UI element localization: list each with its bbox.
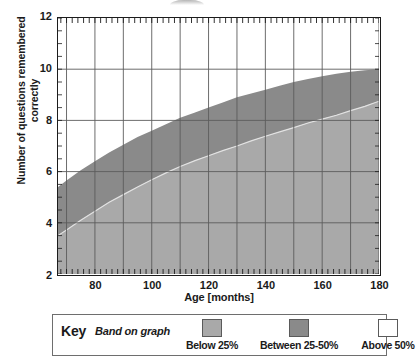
x-tick-160: 160	[303, 279, 343, 291]
key-entry-above-50: Above 50%	[349, 319, 420, 351]
y-tick-10: 10	[28, 63, 52, 74]
key-legend: Key Band on graph Below 25% Between 25-5…	[52, 314, 387, 356]
x-tick-80: 80	[75, 279, 115, 291]
key-caption-above-50: Above 50%	[349, 339, 420, 351]
key-swatch-below-25	[202, 319, 222, 337]
y-tick-6: 6	[28, 166, 52, 177]
plot-area	[57, 17, 381, 276]
y-tick-12: 12	[28, 11, 52, 22]
y-axis-tick-labels: 24681012	[26, 0, 52, 305]
key-subtitle: Band on graph	[95, 325, 170, 337]
key-swatch-between-25-50	[289, 319, 309, 337]
key-caption-between-25-50: Between 25-50%	[249, 339, 349, 351]
y-tick-8: 8	[28, 115, 52, 126]
chart-figure: Number of questions remembered correctly…	[0, 0, 394, 305]
x-axis-title: Age [months]	[57, 291, 381, 303]
x-tick-140: 140	[246, 279, 286, 291]
key-caption-below-25: Below 25%	[176, 339, 248, 351]
x-tick-180: 180	[360, 279, 400, 291]
y-tick-4: 4	[28, 218, 52, 229]
key-swatch-above-50	[378, 319, 398, 337]
key-title: Key	[61, 323, 86, 339]
x-tick-100: 100	[132, 279, 172, 291]
key-entry-between-25-50: Between 25-50%	[249, 319, 349, 351]
key-entry-below-25: Below 25%	[176, 319, 248, 351]
x-tick-120: 120	[189, 279, 229, 291]
centile-band-plot	[58, 18, 379, 274]
